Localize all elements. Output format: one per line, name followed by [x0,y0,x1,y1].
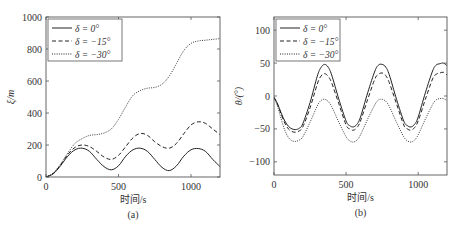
x-tick-label: 500 [111,181,126,192]
caption-a: (a) [127,209,138,221]
legend-entry: δ = 0° [75,24,99,34]
y-axis-label-a: ξ/m [5,90,17,104]
legend-entry: δ = −15° [303,37,338,47]
x-tick-label: 0 [44,181,49,192]
series-line-dashed [274,72,447,132]
y-axis-label-b: θ/(°) [233,86,245,105]
y-tick-label: 600 [27,76,42,87]
legend-a: δ = 0°δ = −15°δ = −30° [48,19,122,61]
y-tick-label: −100 [249,156,270,167]
caption-b: (b) [355,207,367,219]
plot-lines-b [274,63,447,142]
y-tick-label: −50 [254,123,270,134]
y-tick-label: 200 [27,140,42,151]
y-tick-label: 0 [265,91,270,102]
series-line-solid [46,148,220,177]
y-tick-label: 1000 [22,12,42,23]
y-tick-label: 400 [27,108,42,119]
figure: 02004006008001000 05001000 δ = 0°δ = −15… [0,0,457,231]
legend-entry: δ = −30° [75,50,110,60]
legend-entry: δ = −30° [303,50,338,60]
legend-entry: δ = −15° [75,37,110,47]
chart-panel-b: −100−50050100 05001000 δ = 0°δ = −15°δ =… [233,17,447,219]
y-tick-label: 100 [255,25,270,36]
legend-entry: δ = 0° [303,24,327,34]
x-tick-label: 1000 [181,181,201,192]
x-tick-label: 500 [339,179,354,190]
x-tick-label: 0 [272,179,277,190]
x-axis-label-a: 时间/s [120,193,147,205]
y-tick-label: 0 [37,172,42,183]
x-tick-label: 1000 [408,179,428,190]
legend-b: δ = 0°δ = −15°δ = −30° [276,19,340,61]
y-tick-label: 800 [27,44,42,55]
y-tick-label: 50 [260,58,270,69]
chart-panel-a: 02004006008001000 05001000 δ = 0°δ = −15… [5,12,220,222]
x-axis-label-b: 时间/s [347,191,374,203]
